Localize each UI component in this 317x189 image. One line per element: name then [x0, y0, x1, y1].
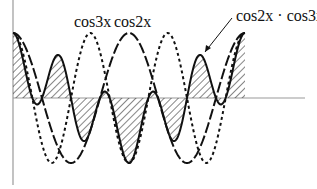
- cos2x-label: cos2x: [114, 14, 151, 30]
- product-diagram: [0, 0, 317, 189]
- cos3x-label: cos3x: [74, 14, 111, 30]
- product-hatched-area: [13, 33, 245, 163]
- product-label: cos2x · cos3x: [236, 8, 317, 24]
